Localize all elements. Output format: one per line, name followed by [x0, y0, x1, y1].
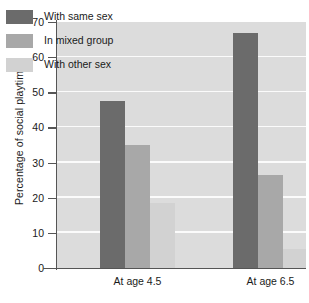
legend-swatch	[6, 58, 33, 72]
y-axis-tick-mark	[48, 163, 56, 164]
bar	[100, 101, 125, 268]
legend-item: With same sex	[6, 5, 113, 28]
x-axis-tick-label: At age 4.5	[78, 276, 198, 287]
bar	[125, 145, 150, 268]
bar	[283, 249, 306, 268]
legend-swatch	[6, 10, 33, 24]
gridline	[57, 126, 306, 128]
legend-item: With other sex	[6, 53, 113, 76]
gridline	[57, 91, 306, 93]
y-axis-tick-mark	[48, 233, 56, 234]
y-axis-tick-label: 0	[4, 263, 44, 274]
y-axis-tick-label: 30	[4, 158, 44, 169]
legend-label: With other sex	[44, 59, 111, 70]
y-axis-tick-mark	[48, 127, 56, 128]
y-axis-tick-mark	[48, 92, 56, 93]
gridline	[57, 161, 306, 163]
x-axis-line	[43, 268, 306, 269]
bar	[150, 203, 175, 268]
x-axis-tick-label: At age 6.5	[211, 276, 309, 287]
y-axis-tick-label: 20	[4, 193, 44, 204]
bar	[258, 175, 283, 268]
bar	[233, 33, 258, 268]
y-axis-tick-label: 50	[4, 87, 44, 98]
legend-label: With same sex	[44, 11, 113, 22]
legend-label: In mixed group	[44, 35, 113, 46]
legend-item: In mixed group	[6, 29, 113, 52]
y-axis-tick-label: 40	[4, 122, 44, 133]
y-axis-tick-mark	[48, 198, 56, 199]
bar-chart-figure: Percentage of social playtime 0102030405…	[0, 0, 308, 303]
legend-swatch	[6, 34, 33, 48]
chart-legend: With same sexIn mixed groupWith other se…	[6, 5, 113, 77]
y-axis-tick-label: 10	[4, 228, 44, 239]
